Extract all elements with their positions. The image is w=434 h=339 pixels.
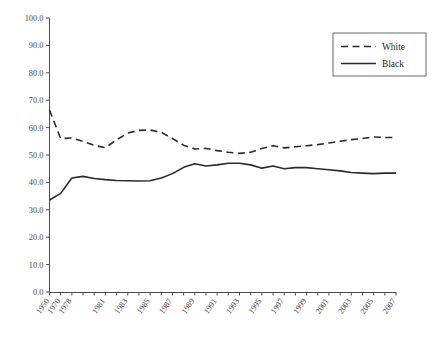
x-tick-label: 1983 [113,297,130,316]
x-tick-label: 1981 [90,297,107,316]
legend-label-white: White [382,42,405,52]
x-tick-label: 1989 [180,297,197,316]
x-tick-label: 1985 [135,297,152,316]
x-tick-label: 1978 [57,297,74,316]
y-tick-label: 60.0 [29,124,44,133]
x-tick-label: 1991 [202,297,219,316]
legend-label-black: Black [382,59,404,69]
y-tick-label: 30.0 [29,206,44,215]
y-tick-label: 80.0 [29,69,44,78]
y-tick-label: 0.0 [33,288,43,297]
x-tick-label: 1993 [224,297,241,316]
x-tick-label: 2001 [314,297,331,316]
x-tick-label: 2005 [359,297,376,316]
x-tick-label: 2003 [336,297,353,316]
line-chart: 0.010.020.030.040.050.060.070.080.090.01… [0,0,434,339]
y-tick-label: 70.0 [29,96,44,105]
y-tick-label: 90.0 [29,41,44,50]
x-tick-label: 1995 [247,297,264,316]
x-tick-label: 1997 [269,297,286,316]
chart-canvas: 0.010.020.030.040.050.060.070.080.090.01… [0,0,434,339]
legend-border [333,33,426,76]
y-tick-label: 20.0 [29,233,44,242]
x-tick-label: 2007 [381,297,398,316]
y-tick-label: 100.0 [25,14,44,23]
y-tick-label: 10.0 [29,261,44,270]
x-tick-label: 1987 [157,297,174,316]
series-line-white [50,110,397,153]
series-line-black [50,163,397,200]
y-tick-label: 50.0 [29,151,44,160]
y-axis-ticks [46,18,50,292]
x-axis-labels: 1950197019781981198319851987198919911993… [34,297,397,316]
y-axis-labels: 0.010.020.030.040.050.060.070.080.090.01… [25,14,44,297]
y-tick-label: 40.0 [29,178,44,187]
chart-legend: White Black [333,33,426,76]
x-tick-label: 1999 [291,297,308,316]
